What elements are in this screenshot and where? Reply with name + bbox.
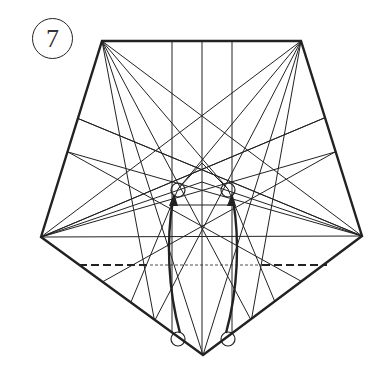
crease-line xyxy=(202,163,228,189)
crease-line xyxy=(41,116,329,237)
crease-line xyxy=(202,182,362,236)
fold-markers xyxy=(169,183,237,346)
crease-lines xyxy=(41,41,362,355)
crease-line xyxy=(41,152,335,237)
origami-fold-diagram xyxy=(0,0,391,369)
crease-line xyxy=(68,152,362,236)
crease-line xyxy=(178,163,202,189)
crease-line xyxy=(41,236,362,237)
